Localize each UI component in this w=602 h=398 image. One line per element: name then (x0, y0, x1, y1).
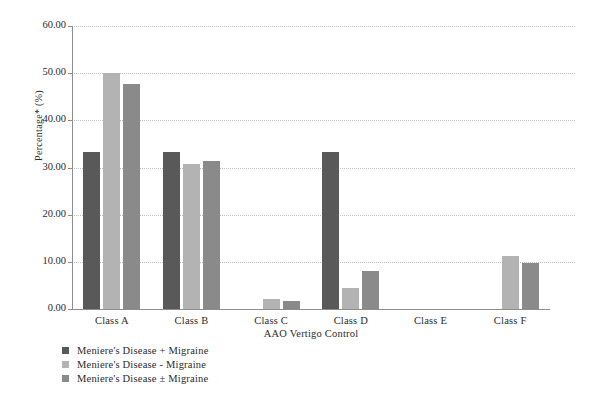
bar-group (231, 26, 311, 309)
bar-slot (123, 26, 140, 309)
legend-swatch-icon (62, 347, 69, 354)
y-tick-mark (68, 168, 72, 169)
legend-item[interactable]: Meniere's Disease - Migraine (62, 358, 209, 371)
legend-label: Meniere's Disease ± Migraine (77, 373, 208, 384)
bar-slot (83, 26, 100, 309)
bar-slot (522, 26, 539, 309)
bar[interactable] (203, 161, 220, 309)
bar-slot (103, 26, 120, 309)
bar-slot (183, 26, 200, 309)
x-tick-label: Class B (147, 315, 237, 326)
bar[interactable] (103, 73, 120, 309)
legend: Meniere's Disease + MigraineMeniere's Di… (62, 344, 209, 386)
y-tick-label: 20.00 (0, 208, 66, 219)
bar[interactable] (342, 288, 359, 309)
bar-group (72, 26, 152, 309)
y-tick-mark (68, 26, 72, 27)
bar-slot (203, 26, 220, 309)
legend-swatch-icon (62, 361, 69, 368)
bar-slot (342, 26, 359, 309)
bar-slot (442, 26, 459, 309)
plot-area (72, 26, 578, 309)
bar-slot (482, 26, 499, 309)
legend-label: Meniere's Disease + Migraine (77, 345, 209, 356)
x-tick-label: Class E (386, 315, 476, 326)
bar-slot (243, 26, 260, 309)
bar-slot (422, 26, 439, 309)
bar[interactable] (163, 152, 180, 309)
bar[interactable] (123, 84, 140, 309)
x-axis-title: AAO Vertigo Control (72, 328, 550, 339)
x-tick-label: Class F (465, 315, 555, 326)
bar-group (391, 26, 471, 309)
bar-chart-figure: 0.0010.0020.0030.0040.0050.0060.00 Perce… (0, 0, 602, 398)
y-axis-title: Percentage* (%) (33, 66, 44, 186)
bar-slot (283, 26, 300, 309)
bar-group (311, 26, 391, 309)
bar[interactable] (322, 152, 339, 309)
y-axis-line (72, 26, 73, 310)
y-tick-label: 10.00 (0, 255, 66, 266)
legend-swatch-icon (62, 375, 69, 382)
bar[interactable] (263, 299, 280, 309)
legend-item[interactable]: Meniere's Disease + Migraine (62, 344, 209, 357)
y-tick-label: 0.00 (0, 302, 66, 313)
bar-group (470, 26, 550, 309)
y-tick-mark (68, 309, 72, 310)
x-axis-line (72, 309, 550, 310)
y-tick-label: 60.00 (0, 19, 66, 30)
bar[interactable] (283, 301, 300, 309)
bar[interactable] (502, 256, 519, 309)
bar[interactable] (183, 164, 200, 309)
x-tick-label: Class D (306, 315, 396, 326)
bar[interactable] (362, 271, 379, 309)
bar-group (152, 26, 232, 309)
bar-slot (322, 26, 339, 309)
bar-slot (163, 26, 180, 309)
y-tick-mark (68, 262, 72, 263)
x-tick-label: Class C (226, 315, 316, 326)
bar[interactable] (522, 263, 539, 309)
legend-item[interactable]: Meniere's Disease ± Migraine (62, 372, 209, 385)
bar[interactable] (83, 152, 100, 309)
bar-slot (362, 26, 379, 309)
bar-slot (502, 26, 519, 309)
y-tick-mark (68, 73, 72, 74)
y-tick-mark (68, 215, 72, 216)
x-tick-label: Class A (67, 315, 157, 326)
y-tick-mark (68, 120, 72, 121)
bar-slot (263, 26, 280, 309)
legend-label: Meniere's Disease - Migraine (77, 359, 206, 370)
bar-slot (402, 26, 419, 309)
